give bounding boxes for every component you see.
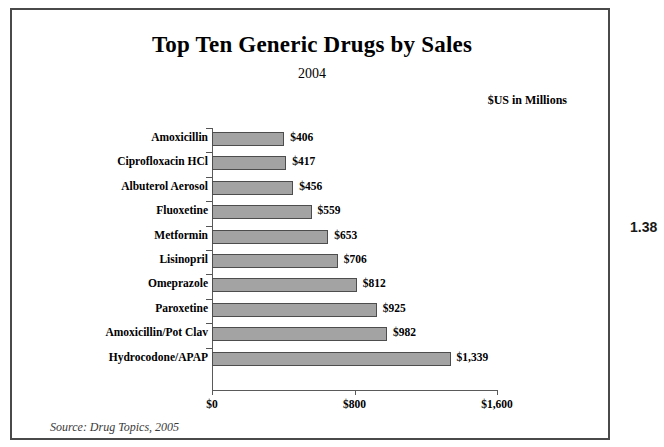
bar[interactable] [212,278,357,292]
bar-value-label: $706 [344,253,367,265]
units-label: $US in Millions [312,93,567,108]
bar-row: Paroxetine$925 [12,299,612,323]
y-axis-tick [206,177,212,178]
category-label: Amoxicillin/Pot Clav [105,325,208,339]
bar[interactable] [212,181,293,195]
category-label: Amoxicillin [151,130,208,144]
chart-subtitle: 2004 [12,66,612,82]
y-axis-tick [206,299,212,300]
category-label: Metformin [154,228,208,242]
bar-value-label: $559 [318,204,341,216]
bar[interactable] [212,156,286,170]
x-axis-tick [497,390,498,395]
y-axis-tick [206,348,212,349]
x-axis-tick-label: $0 [206,398,218,410]
bar[interactable] [212,230,328,244]
category-label: Hydrocodone/APAP [109,350,208,364]
x-axis-tick-label: $800 [343,398,366,410]
x-axis-tick-label: $1,600 [481,398,513,410]
bar-value-label: $982 [393,326,416,338]
bar[interactable] [212,352,451,366]
bar-row: Fluoxetine$559 [12,201,612,225]
category-label: Lisinopril [159,252,208,266]
source-note: Source: Drug Topics, 2005 [50,420,179,435]
bar-value-label: $653 [334,229,357,241]
bar[interactable] [212,327,387,341]
y-axis-tick [206,274,212,275]
category-label: Omeprazole [148,276,208,290]
bar-value-label: $406 [290,131,313,143]
category-label: Fluoxetine [156,203,208,217]
bar-row: Lisinopril$706 [12,250,612,274]
bar-value-label: $456 [299,180,322,192]
category-label: Paroxetine [155,301,208,315]
bar[interactable] [212,205,312,219]
bar[interactable] [212,303,377,317]
bar-value-label: $812 [363,277,386,289]
bar[interactable] [212,132,284,146]
plot-area: Amoxicillin$406Ciprofloxacin HCl$417Albu… [12,128,612,390]
category-label: Ciprofloxacin HCl [117,154,208,168]
y-axis-tick [206,323,212,324]
x-axis-tick [355,390,356,395]
category-label: Albuterol Aerosol [121,179,208,193]
bar[interactable] [212,254,338,268]
y-axis-tick [206,250,212,251]
bar-row: Metformin$653 [12,226,612,250]
bar-row: Amoxicillin/Pot Clav$982 [12,323,612,347]
y-axis-tick [206,201,212,202]
bar-row: Hydrocodone/APAP$1,339 [12,348,612,372]
figure-frame: Top Ten Generic Drugs by Sales 2004 $US … [10,8,610,440]
bar-row: Omeprazole$812 [12,274,612,298]
y-axis-tick [206,226,212,227]
bar-row: Albuterol Aerosol$456 [12,177,612,201]
bar-row: Ciprofloxacin HCl$417 [12,152,612,176]
chart-title: Top Ten Generic Drugs by Sales [12,32,612,58]
bar-value-label: $1,339 [457,351,489,363]
y-axis-tick [206,152,212,153]
bar-row: Amoxicillin$406 [12,128,612,152]
bar-value-label: $417 [292,155,315,167]
y-axis-tick [206,128,212,129]
bar-value-label: $925 [383,302,406,314]
page-number-marginalia: 1.38 [630,219,657,235]
x-axis-tick [212,390,213,395]
